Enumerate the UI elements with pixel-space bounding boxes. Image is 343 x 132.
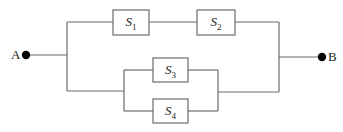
terminal-b-label: B (328, 50, 337, 63)
terminal-a-label: A (11, 48, 20, 61)
component-label-s3: S3 (153, 63, 188, 80)
s2-subscript: 2 (217, 22, 222, 32)
component-label-s2: S2 (197, 15, 235, 32)
s1-subscript: 1 (132, 22, 137, 32)
terminal-b-node-icon (318, 53, 326, 61)
s4-subscript: 4 (172, 111, 177, 121)
s3-subscript: 3 (172, 70, 177, 80)
terminal-a-node-icon (22, 51, 30, 59)
component-label-s1: S1 (113, 15, 149, 32)
component-label-s4: S4 (153, 104, 188, 121)
